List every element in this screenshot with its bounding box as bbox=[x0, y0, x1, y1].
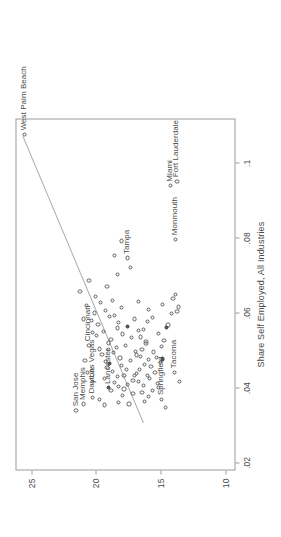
data-point bbox=[170, 296, 174, 300]
data-point bbox=[137, 367, 141, 371]
data-point bbox=[97, 346, 101, 350]
point-label: Springfield bbox=[156, 356, 164, 394]
data-point bbox=[139, 390, 143, 394]
x-axis-tick-label: .08 bbox=[241, 232, 251, 244]
x-axis-tick bbox=[235, 462, 239, 463]
data-point bbox=[102, 403, 106, 407]
data-point bbox=[93, 294, 97, 298]
data-point bbox=[126, 401, 130, 405]
data-point bbox=[128, 358, 132, 362]
data-point bbox=[177, 379, 181, 383]
data-point bbox=[160, 302, 164, 306]
data-point bbox=[128, 265, 132, 269]
y-axis-tick bbox=[225, 470, 226, 474]
data-point bbox=[176, 304, 180, 308]
x-axis-tick-label: .1 bbox=[241, 159, 251, 166]
x-axis-tick-label: .06 bbox=[241, 307, 251, 319]
data-point bbox=[119, 305, 123, 309]
data-point bbox=[101, 329, 105, 333]
point-label: Las Vegas bbox=[87, 339, 95, 377]
data-point bbox=[142, 362, 146, 366]
y-axis-tick-label: 20 bbox=[90, 478, 100, 500]
data-point bbox=[172, 370, 176, 374]
point-label: Fort Lauderdale bbox=[171, 119, 179, 176]
point-label: West Palm Beach bbox=[19, 66, 27, 130]
data-point bbox=[107, 314, 111, 318]
data-point bbox=[119, 363, 123, 367]
data-point bbox=[22, 132, 26, 136]
x-axis-tick-label: .02 bbox=[241, 456, 251, 468]
data-point bbox=[116, 384, 120, 388]
data-point bbox=[130, 378, 134, 382]
data-point bbox=[130, 391, 134, 395]
data-point bbox=[151, 349, 155, 353]
data-point bbox=[115, 272, 119, 276]
data-point bbox=[164, 325, 168, 329]
data-point bbox=[143, 341, 147, 345]
data-point bbox=[159, 344, 163, 348]
data-point bbox=[146, 307, 150, 311]
data-point bbox=[125, 324, 129, 328]
point-label: Memphis bbox=[78, 367, 86, 400]
data-point bbox=[145, 373, 149, 377]
y-axis-tick-label: 10 bbox=[220, 478, 230, 500]
y-axis-tick-label: 15 bbox=[155, 478, 165, 500]
data-point bbox=[112, 313, 116, 317]
data-point bbox=[97, 397, 101, 401]
data-point bbox=[115, 325, 119, 329]
data-point bbox=[136, 379, 140, 383]
data-point bbox=[124, 367, 128, 371]
regression-fit-line bbox=[16, 119, 234, 469]
data-point bbox=[73, 408, 77, 412]
data-point bbox=[86, 278, 90, 282]
data-point bbox=[121, 373, 125, 377]
data-point bbox=[117, 355, 121, 359]
data-point bbox=[116, 320, 120, 324]
data-point bbox=[81, 401, 85, 405]
y-axis-tick bbox=[95, 470, 96, 474]
y-axis-tick bbox=[31, 470, 32, 474]
data-point bbox=[120, 331, 124, 335]
point-label: Cincinnati bbox=[83, 305, 91, 341]
data-point bbox=[103, 308, 107, 312]
data-point bbox=[163, 405, 167, 409]
x-axis-tick bbox=[235, 162, 239, 163]
data-point bbox=[146, 394, 150, 398]
data-point bbox=[138, 354, 142, 358]
data-point bbox=[150, 388, 154, 392]
data-point bbox=[108, 337, 112, 341]
data-point bbox=[169, 311, 173, 315]
x-axis-tick bbox=[235, 237, 239, 238]
x-axis-tick bbox=[235, 387, 239, 388]
chart-page: .02.04.06.08.110152025San JoseMemphisDay… bbox=[0, 0, 281, 537]
y-axis-tick-label: 25 bbox=[26, 478, 36, 500]
data-point bbox=[111, 350, 115, 354]
plot-frame bbox=[15, 118, 235, 470]
data-point bbox=[136, 328, 140, 332]
x-axis-tick-label: .04 bbox=[241, 382, 251, 394]
data-point bbox=[134, 371, 138, 375]
data-point bbox=[146, 357, 150, 361]
data-point bbox=[161, 338, 165, 342]
y-axis-tick bbox=[160, 470, 161, 474]
data-point bbox=[121, 386, 125, 390]
data-point bbox=[125, 255, 129, 259]
data-point bbox=[104, 284, 108, 288]
data-point bbox=[92, 310, 96, 314]
data-point bbox=[139, 347, 143, 351]
data-point bbox=[174, 179, 178, 183]
data-point bbox=[112, 253, 116, 257]
data-point bbox=[90, 395, 94, 399]
data-point bbox=[98, 300, 102, 304]
data-point bbox=[168, 183, 172, 187]
data-point bbox=[136, 299, 140, 303]
data-point bbox=[116, 400, 120, 404]
data-point bbox=[174, 309, 178, 313]
data-point bbox=[115, 374, 119, 378]
data-point bbox=[123, 343, 127, 347]
data-point bbox=[173, 237, 177, 241]
data-point bbox=[95, 322, 99, 326]
point-label: Tampa bbox=[122, 229, 130, 253]
data-point bbox=[129, 335, 133, 339]
data-point bbox=[141, 383, 145, 387]
